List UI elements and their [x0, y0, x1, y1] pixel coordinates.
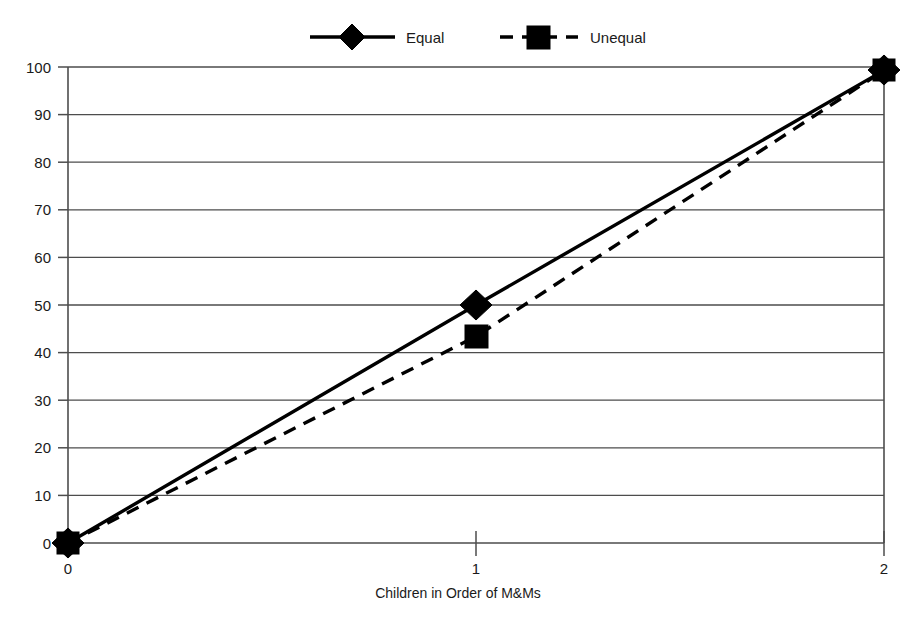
y-tick-label-90: 90 [34, 106, 51, 123]
y-tick-label-50: 50 [34, 297, 51, 314]
square-marker-icon [527, 26, 550, 49]
legend-label-unequal: Unequal [590, 29, 646, 46]
x-tick-label-1: 1 [472, 560, 480, 577]
y-tick-label-20: 20 [34, 439, 51, 456]
y-tick-label-70: 70 [34, 201, 51, 218]
y-tick-label-10: 10 [34, 487, 51, 504]
y-tick-label-80: 80 [34, 154, 51, 171]
line-chart: Equal Unequal [0, 0, 916, 629]
x-tick-label-2: 2 [880, 560, 888, 577]
y-tick-label-40: 40 [34, 344, 51, 361]
y-tick-label-60: 60 [34, 249, 51, 266]
data-point-unequal-1 [465, 325, 488, 348]
chart-container: Equal Unequal [0, 0, 916, 629]
y-tick-label-0: 0 [43, 535, 51, 552]
legend-label-equal: Equal [406, 29, 444, 46]
x-tick-label-0: 0 [64, 560, 72, 577]
y-tick-label-30: 30 [34, 392, 51, 409]
x-axis-title: Children in Order of M&Ms [375, 585, 541, 601]
y-tick-label-100: 100 [26, 59, 51, 76]
